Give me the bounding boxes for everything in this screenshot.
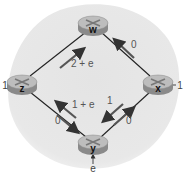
flow-label-y-x: 0 — [126, 115, 132, 126]
input-label-z: 1 — [2, 80, 8, 91]
node-label-y: y — [90, 143, 96, 154]
flow-label-z-w: 2 + e — [71, 58, 94, 69]
flow-label-x-w: 0 — [131, 39, 137, 50]
flow-label-z-y: 0 — [55, 115, 61, 126]
node-label-x: x — [155, 83, 161, 94]
input-label-x: 1 — [177, 80, 183, 91]
flow-label-x-y: 1 — [107, 95, 113, 106]
input-label-y: e — [90, 163, 96, 174]
flow-label-y-z: 1 + e — [72, 99, 95, 110]
node-label-z: z — [20, 83, 25, 94]
node-label-w: w — [88, 24, 97, 35]
routing-diagram: w z x y 1 1 e 2 + e 0 1 + e 0 1 0 — [0, 0, 187, 176]
